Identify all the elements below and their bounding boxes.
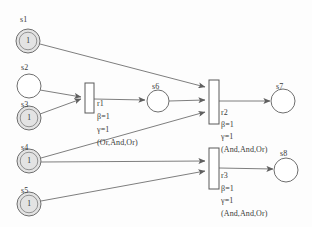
petri-net-diagram: 1s1s21s31s41s5s6s7s8r1β=1γ=1(Or,And,Or)r…: [0, 0, 312, 227]
transition-beta-r3: β=1: [221, 185, 234, 193]
arcs-layer: [40, 44, 273, 201]
place-label-s2: s2: [21, 64, 29, 72]
place-label-s7: s7: [276, 83, 284, 91]
place-label-s4: s4: [21, 144, 29, 152]
transition-semantics-r2: (And,And,Or): [221, 146, 268, 154]
place-label-s3: s3: [21, 101, 29, 109]
transition-gamma-r3: γ=1: [221, 197, 233, 205]
transition-name-r2: r2: [221, 109, 228, 117]
place-label-s6: s6: [152, 83, 160, 91]
transition-r3[interactable]: [209, 148, 219, 189]
token-count-s3: 1: [19, 114, 39, 122]
transition-gamma-r2: γ=1: [221, 133, 233, 141]
token-count-s4: 1: [19, 157, 39, 165]
arc-s6-to-r2: [169, 100, 205, 101]
place-s8[interactable]: [274, 158, 298, 182]
transition-beta-r2: β=1: [221, 121, 234, 129]
place-label-s1: s1: [20, 16, 28, 24]
token-count-s5: 1: [19, 200, 39, 208]
place-label-s8: s8: [280, 150, 288, 158]
transition-r1[interactable]: [85, 83, 94, 113]
places-layer: [16, 29, 298, 216]
place-s7[interactable]: [271, 89, 295, 113]
place-s2[interactable]: [17, 74, 41, 98]
net-canvas: [0, 0, 312, 227]
arc-s1-to-r2: [40, 44, 205, 87]
token-count-s1: 1: [18, 37, 38, 45]
arc-s2-to-r1: [40, 90, 81, 97]
arc-s3-to-r1: [40, 99, 81, 114]
transition-gamma-r1: γ=1: [97, 126, 109, 134]
transition-beta-r1: β=1: [97, 113, 110, 121]
transition-r2[interactable]: [209, 80, 219, 124]
arc-s5-to-r3: [41, 171, 205, 201]
transition-name-r1: r1: [97, 100, 104, 108]
place-s6[interactable]: [147, 90, 169, 112]
transition-name-r3: r3: [221, 172, 228, 180]
arc-s4-to-r3: [41, 161, 205, 162]
place-label-s5: s5: [21, 187, 29, 195]
transition-semantics-r1: (Or,And,Or): [97, 139, 138, 147]
transition-semantics-r3: (And,And,Or): [221, 210, 268, 218]
arc-s4-to-r2: [41, 112, 205, 158]
arc-r3-to-s8: [219, 168, 273, 169]
